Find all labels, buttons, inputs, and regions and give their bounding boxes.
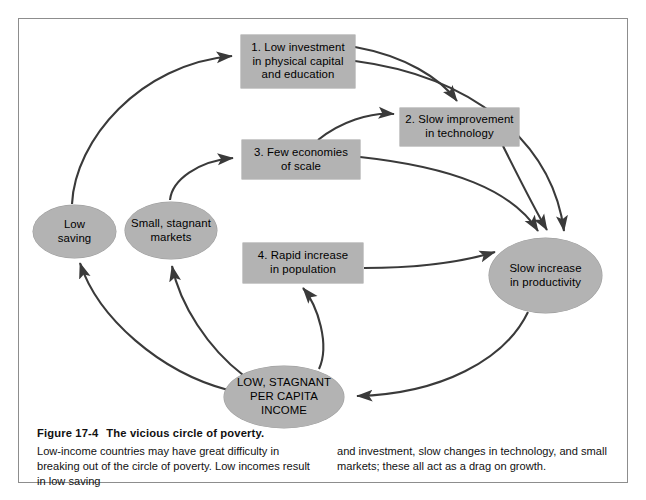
caption-body: Low-income countries may have great diff… [37, 444, 615, 488]
node-slow-improvement-technology[interactable]: 2. Slow improvement in technology [400, 108, 519, 146]
figure-number: Figure 17-4 [37, 427, 98, 439]
caption-text-right: and investment, slow changes in technolo… [337, 444, 615, 474]
node-low-saving[interactable]: Low saving [33, 205, 116, 258]
node-slow-increase-productivity[interactable]: Slow increase in productivity [489, 238, 602, 313]
figure-caption: Figure 17-4The vicious circle of poverty… [37, 427, 615, 488]
figure-container: 1. Low investment in physical capital an… [0, 0, 646, 500]
caption-column-left: Low-income countries may have great diff… [37, 444, 315, 488]
node-rapid-increase-population[interactable]: 4. Rapid increase in population [243, 243, 363, 283]
caption-text-left: Low-income countries may have great diff… [37, 444, 315, 488]
figure-title: The vicious circle of poverty. [106, 427, 264, 439]
node-small-stagnant-markets[interactable]: Small, stagnant markets [125, 202, 217, 259]
node-few-economies-of-scale[interactable]: 3. Few economies of scale [242, 140, 360, 179]
caption-column-right: and investment, slow changes in technolo… [337, 444, 615, 488]
node-low-investment[interactable]: 1. Low investment in physical capital an… [241, 35, 355, 88]
caption-title: Figure 17-4The vicious circle of poverty… [37, 427, 615, 439]
node-low-stagnant-per-capita-income[interactable]: LOW, STAGNANT PER CAPITA INCOME [224, 366, 344, 428]
